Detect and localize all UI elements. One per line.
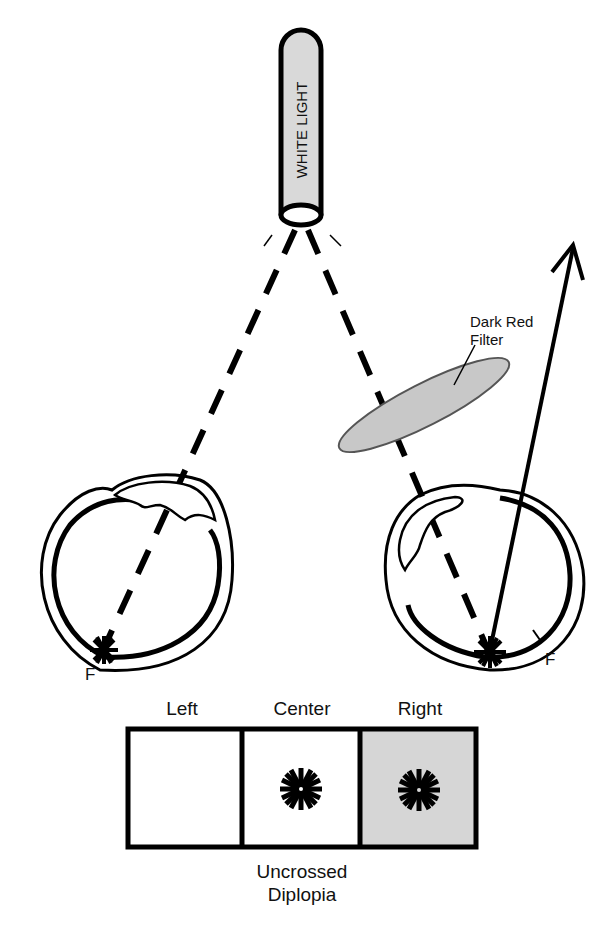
- panel-header-right: Right: [398, 698, 443, 719]
- right-fovea-label: F: [545, 650, 555, 669]
- diplopia-diagram: WHITE LIGHT Dark Red Filter F: [0, 0, 607, 933]
- white-light-source: WHITE LIGHT: [264, 30, 341, 246]
- caption-line2: Diplopia: [268, 884, 337, 905]
- right-light-path: [308, 230, 490, 655]
- panel-header-center: Center: [273, 698, 331, 719]
- perception-panels: [128, 729, 476, 847]
- panel-header-left: Left: [166, 698, 198, 719]
- filter-label-line2: Filter: [470, 331, 503, 348]
- left-fovea-star-icon: [90, 636, 118, 664]
- left-light-path: [103, 230, 295, 650]
- caption-line1: Uncrossed: [257, 861, 348, 882]
- left-eye: F: [41, 475, 232, 684]
- dark-red-filter: Dark Red Filter: [330, 313, 534, 467]
- filter-label-line1: Dark Red: [470, 313, 533, 330]
- right-eye: F: [385, 485, 584, 670]
- right-fovea-star-icon: [474, 636, 506, 668]
- left-fovea-label: F: [85, 665, 95, 684]
- white-light-label: WHITE LIGHT: [293, 82, 310, 179]
